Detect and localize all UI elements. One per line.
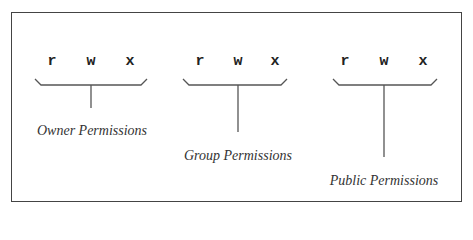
- group-bracket: [183, 79, 287, 132]
- owner-bracket: [35, 79, 147, 108]
- group-execute-letter: x: [270, 54, 279, 69]
- owner-execute-letter: x: [125, 54, 134, 69]
- public-execute-letter: x: [418, 54, 427, 69]
- group-read-letter: r: [195, 54, 204, 69]
- public-write-letter: w: [379, 54, 388, 69]
- owner-write-letter: w: [86, 54, 95, 69]
- public-read-letter: r: [340, 54, 349, 69]
- group-permissions-label: Group Permissions: [184, 149, 292, 163]
- group-write-letter: w: [233, 54, 242, 69]
- public-bracket: [333, 79, 437, 157]
- owner-read-letter: r: [47, 54, 56, 69]
- public-permissions-label: Public Permissions: [330, 174, 439, 188]
- owner-permissions-label: Owner Permissions: [37, 124, 147, 138]
